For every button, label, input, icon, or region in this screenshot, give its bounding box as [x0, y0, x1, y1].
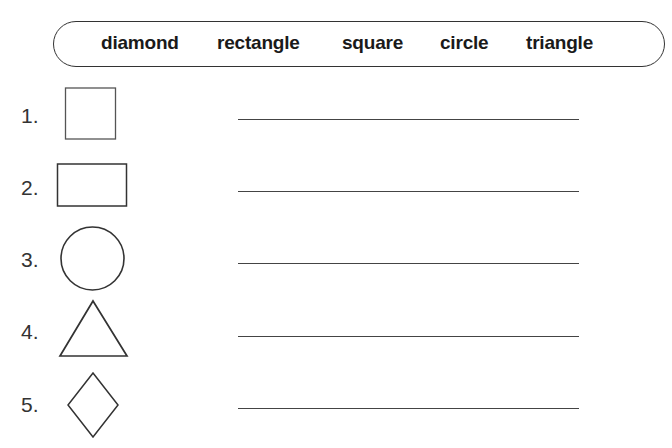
question-number-2: 2. [21, 176, 39, 200]
diamond-icon [66, 370, 122, 440]
answer-line-5[interactable] [238, 408, 579, 409]
question-number-5: 5. [21, 393, 39, 417]
word-rectangle: rectangle [217, 32, 300, 54]
word-square: square [342, 32, 403, 54]
word-diamond: diamond [101, 32, 179, 54]
question-number-1: 1. [21, 104, 39, 128]
triangle-icon [58, 298, 130, 360]
word-triangle: triangle [526, 32, 593, 54]
square-icon [64, 86, 118, 142]
answer-line-2[interactable] [238, 191, 579, 192]
question-number-4: 4. [21, 320, 39, 344]
answer-line-3[interactable] [238, 263, 579, 264]
question-number-3: 3. [21, 248, 39, 272]
word-bank: diamond rectangle square circle triangle [53, 21, 665, 67]
rectangle-icon [56, 162, 130, 210]
answer-line-4[interactable] [238, 336, 579, 337]
word-circle: circle [440, 32, 488, 54]
answer-line-1[interactable] [238, 119, 579, 120]
circle-icon [59, 225, 127, 293]
